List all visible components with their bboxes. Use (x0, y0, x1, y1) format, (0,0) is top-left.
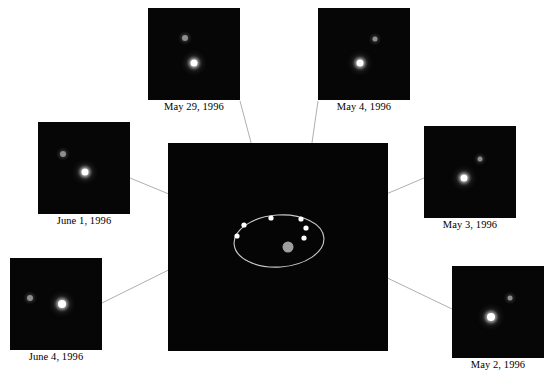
observation-caption-may-4-1996: May 4, 1996 (318, 101, 410, 112)
primary-star-june-1-1996 (82, 169, 89, 176)
orbit-diagram-panel (168, 143, 388, 351)
marker-may-2 (301, 235, 306, 240)
marker-may-4 (298, 216, 303, 221)
observation-caption-may-2-1996: May 2, 1996 (452, 359, 544, 370)
sky-field-june-1-1996 (38, 122, 130, 214)
marker-may-29 (268, 215, 273, 220)
observation-caption-may-29-1996: May 29, 1996 (148, 101, 240, 112)
orbit-diagram-svg (168, 143, 388, 351)
binary-star-orbit-figure: May 29, 1996May 4, 1996June 1, 1996May 3… (0, 0, 550, 378)
primary-star-may-29-1996 (191, 60, 198, 67)
primary-star-may-3-1996 (461, 175, 468, 182)
secondary-star-may-2-1996 (508, 296, 513, 301)
sky-field-may-2-1996 (452, 266, 544, 358)
observation-caption-june-4-1996: June 4, 1996 (10, 351, 102, 362)
secondary-star-may-4-1996 (373, 37, 378, 42)
secondary-star-june-1-1996 (60, 151, 66, 157)
sky-field-may-29-1996 (148, 8, 240, 100)
observation-panel-may-4-1996 (318, 8, 410, 100)
secondary-star-june-4-1996 (27, 295, 33, 301)
central-body (283, 242, 294, 253)
observation-panel-june-4-1996 (10, 258, 102, 350)
primary-star-may-4-1996 (357, 60, 364, 67)
marker-june-4 (234, 233, 239, 238)
primary-star-may-2-1996 (487, 313, 495, 321)
secondary-star-may-29-1996 (182, 35, 188, 41)
secondary-star-may-3-1996 (478, 157, 483, 162)
marker-may-3 (303, 225, 308, 230)
observation-caption-june-1-1996: June 1, 1996 (38, 215, 130, 226)
sky-field-may-3-1996 (424, 126, 516, 218)
marker-june-1 (241, 222, 246, 227)
observation-panel-may-2-1996 (452, 266, 544, 358)
orbit-ellipse (232, 212, 325, 270)
sky-field-may-4-1996 (318, 8, 410, 100)
observation-panel-june-1-1996 (38, 122, 130, 214)
observation-panel-may-29-1996 (148, 8, 240, 100)
observation-caption-may-3-1996: May 3, 1996 (424, 219, 516, 230)
observation-panel-may-3-1996 (424, 126, 516, 218)
sky-field-june-4-1996 (10, 258, 102, 350)
primary-star-june-4-1996 (58, 300, 66, 308)
